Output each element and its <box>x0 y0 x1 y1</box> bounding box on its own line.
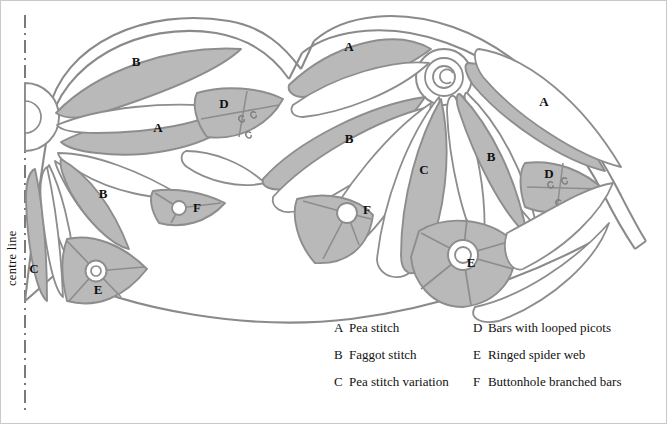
region-label-a: A <box>153 120 163 135</box>
legend-row: BFaggot stitchERinged spider web <box>334 348 654 375</box>
legend-text-b: Faggot stitch <box>349 348 473 375</box>
buttonhole-branched-bars-left <box>151 190 225 225</box>
region-label-b: B <box>132 54 141 69</box>
region-label-a: A <box>344 39 354 54</box>
region-label-f: F <box>193 200 201 215</box>
bridge-white-bar <box>182 151 265 185</box>
legend-text-c: Pea stitch variation <box>349 375 473 402</box>
region-label-b: B <box>487 149 496 164</box>
region-label-d: D <box>544 166 553 181</box>
bars-with-looped-picots-left <box>195 88 283 138</box>
region-label-c: C <box>29 261 38 276</box>
region-label-b: B <box>345 131 354 146</box>
legend-key-c: C <box>334 375 349 402</box>
legend-text-e: Ringed spider web <box>488 348 654 375</box>
ringed-spider-web-left <box>63 237 148 303</box>
region-label-b: B <box>99 186 108 201</box>
region-label-d: D <box>219 96 228 111</box>
ringed-spider-web-right <box>411 219 515 307</box>
region-label-a: A <box>539 94 549 109</box>
legend-key-a: A <box>334 321 349 348</box>
legend-text-f: Buttonhole branched bars <box>488 375 654 402</box>
region-label-c: C <box>419 162 428 177</box>
legend: APea stitchDBars with looped picotsBFagg… <box>334 321 654 402</box>
looped-picot-icon <box>246 132 251 138</box>
region-label-e: E <box>467 255 476 270</box>
legend-key-f: F <box>473 375 488 402</box>
legend-key-e: E <box>473 348 488 375</box>
legend-table: APea stitchDBars with looped picotsBFagg… <box>334 321 654 402</box>
legend-text-a: Pea stitch <box>349 321 473 348</box>
legend-row: CPea stitch variationFButtonhole branche… <box>334 375 654 402</box>
legend-key-d: D <box>473 321 488 348</box>
legend-text-d: Bars with looped picots <box>488 321 654 348</box>
figure-page: BADBFCEABCFABDE centre line APea stitchD… <box>0 0 667 424</box>
region-label-f: F <box>363 202 371 217</box>
legend-key-b: B <box>334 348 349 375</box>
legend-row: APea stitchDBars with looped picots <box>334 321 654 348</box>
centre-line-label: centre line <box>5 166 20 286</box>
buttonhole-branched-bars-centre <box>295 196 373 264</box>
region-label-e: E <box>94 282 103 297</box>
